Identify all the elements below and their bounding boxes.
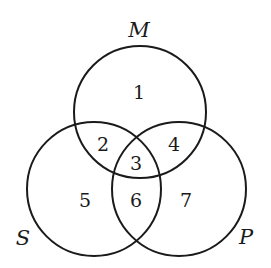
region-3-label: 3: [130, 152, 142, 174]
region-2-label: 2: [97, 133, 109, 155]
region-6-label: 6: [130, 189, 142, 211]
set-label-p: P: [238, 225, 254, 249]
set-label-m: M: [127, 18, 150, 42]
region-4-label: 4: [168, 133, 180, 155]
region-1-label: 1: [133, 81, 145, 103]
venn-diagram: M S P 1 2 3 4 5 6 7: [0, 0, 271, 268]
region-7-label: 7: [180, 189, 192, 211]
set-label-s: S: [16, 226, 30, 250]
region-5-label: 5: [79, 189, 91, 211]
